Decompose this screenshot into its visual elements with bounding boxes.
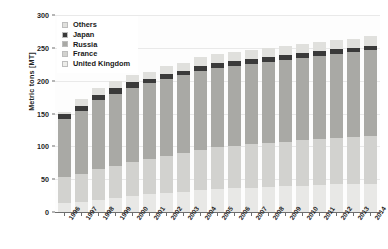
bar-segment-france xyxy=(177,153,190,192)
bar-2003[interactable] xyxy=(177,63,190,212)
bar-segment-france xyxy=(58,177,71,203)
bar-segment-russia xyxy=(245,64,258,145)
legend-item-label: Others xyxy=(73,21,97,28)
bar-segment-france xyxy=(313,139,326,185)
x-label-slot: 2009 xyxy=(279,213,292,249)
bar-segment-others xyxy=(92,88,105,95)
legend-item-others[interactable]: Others xyxy=(62,21,130,28)
bar-2014[interactable] xyxy=(364,36,377,212)
legend-item-label: United Kingdom xyxy=(73,60,130,67)
legend-item-label: France xyxy=(73,50,97,57)
bar-segment-france xyxy=(330,138,343,185)
bar-segment-france xyxy=(245,144,258,187)
bar-2006[interactable] xyxy=(228,52,241,212)
x-label-slot: 2006 xyxy=(228,213,241,249)
bar-2008[interactable] xyxy=(262,48,275,212)
x-label-slot: 1996 xyxy=(58,213,71,249)
x-tick-mark xyxy=(251,213,252,216)
x-tick-mark xyxy=(81,213,82,216)
x-label-slot: 2012 xyxy=(330,213,343,249)
legend-swatch-icon xyxy=(62,22,68,28)
x-tick-mark xyxy=(200,213,201,216)
x-label-slot: 2002 xyxy=(160,213,173,249)
bar-segment-russia xyxy=(194,71,207,150)
x-tick-mark xyxy=(370,213,371,216)
bar-2005[interactable] xyxy=(211,54,224,212)
x-tick-mark xyxy=(132,213,133,216)
bar-segment-russia xyxy=(313,56,326,139)
x-axis-labels: 1996199719981999200020012002200320042005… xyxy=(55,213,380,249)
x-tick-mark xyxy=(302,213,303,216)
x-label-slot: 2000 xyxy=(126,213,139,249)
legend-swatch-icon xyxy=(62,51,68,57)
bar-1997[interactable] xyxy=(75,99,88,212)
bar-segment-france xyxy=(126,162,139,195)
bar-2001[interactable] xyxy=(143,72,156,212)
bar-2000[interactable] xyxy=(126,75,139,212)
x-label-slot: 2001 xyxy=(143,213,156,249)
legend-swatch-icon xyxy=(62,32,68,38)
x-label-slot: 2007 xyxy=(245,213,258,249)
x-tick-mark xyxy=(285,213,286,216)
x-tick-mark xyxy=(319,213,320,216)
bar-segment-france xyxy=(228,146,241,189)
bar-2010[interactable] xyxy=(296,44,309,212)
bar-2007[interactable] xyxy=(245,50,258,212)
x-label-slot: 1997 xyxy=(75,213,88,249)
legend-swatch-icon xyxy=(62,41,68,47)
bar-segment-france xyxy=(194,150,207,191)
legend-item-japan[interactable]: Japan xyxy=(62,31,130,38)
bar-segment-russia xyxy=(75,111,88,174)
bar-segment-russia xyxy=(160,79,173,156)
legend-item-label: Japan xyxy=(73,31,94,38)
bar-segment-russia xyxy=(126,88,139,162)
x-tick-mark xyxy=(64,213,65,216)
bar-segment-others xyxy=(194,57,207,66)
x-label-slot: 2010 xyxy=(296,213,309,249)
bar-segment-france xyxy=(75,174,88,202)
bar-segment-others xyxy=(262,48,275,57)
y-tick-label: 0 xyxy=(45,208,49,217)
bar-2013[interactable] xyxy=(347,39,360,212)
x-tick-mark xyxy=(115,213,116,216)
bar-segment-france xyxy=(143,159,156,194)
bar-segment-france xyxy=(262,143,275,187)
bar-segment-france xyxy=(211,147,224,189)
bar-2011[interactable] xyxy=(313,42,326,212)
bar-2004[interactable] xyxy=(194,57,207,212)
bar-segment-russia xyxy=(109,94,122,166)
bar-2009[interactable] xyxy=(279,46,292,212)
stacked-bar-chart: Metric tons [MT] 050100150200250300 1996… xyxy=(0,0,388,249)
bar-segment-france xyxy=(347,137,360,184)
bar-segment-others xyxy=(279,46,292,55)
bar-segment-united-kingdom xyxy=(58,203,71,212)
bar-segment-russia xyxy=(92,100,105,169)
y-tick-label: 300 xyxy=(37,11,49,20)
bar-segment-others xyxy=(245,50,258,59)
legend-item-russia[interactable]: Russia xyxy=(62,41,130,48)
legend-item-france[interactable]: France xyxy=(62,50,130,57)
x-tick-mark xyxy=(149,213,150,216)
bar-segment-others xyxy=(296,44,309,53)
bar-1999[interactable] xyxy=(109,81,122,212)
bar-segment-russia xyxy=(262,62,275,143)
legend-item-united-kingdom[interactable]: United Kingdom xyxy=(62,60,130,67)
y-tick-label: 150 xyxy=(37,109,49,118)
bar-segment-others xyxy=(143,72,156,79)
bar-2012[interactable] xyxy=(330,40,343,212)
x-tick-mark xyxy=(336,213,337,216)
legend-swatch-icon xyxy=(62,61,68,67)
x-label-slot: 2005 xyxy=(211,213,224,249)
x-label-slot: 2008 xyxy=(262,213,275,249)
bar-segment-france xyxy=(160,156,173,193)
bar-segment-france xyxy=(109,166,122,198)
bar-2002[interactable] xyxy=(160,66,173,212)
bar-segment-russia xyxy=(177,75,190,152)
x-label-slot: 2014 xyxy=(364,213,377,249)
x-tick-mark xyxy=(183,213,184,216)
bar-1998[interactable] xyxy=(92,88,105,212)
y-tick-label: 50 xyxy=(41,175,49,184)
y-tick-label: 100 xyxy=(37,142,49,151)
bar-1996[interactable] xyxy=(58,112,71,212)
bar-segment-others xyxy=(109,81,122,88)
